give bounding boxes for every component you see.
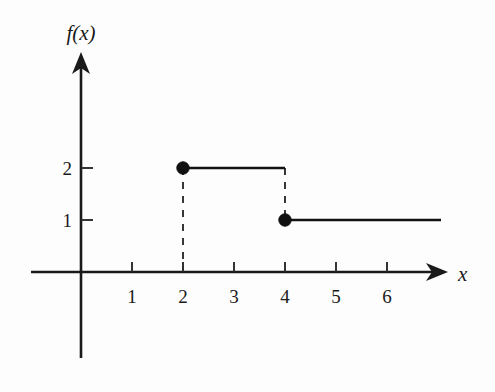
plot-canvas [0, 0, 495, 392]
x-tick-label-4: 4 [280, 287, 290, 306]
x-tick-label-2: 2 [178, 287, 188, 306]
x-tick-label-3: 3 [229, 287, 239, 306]
y-axis-label: f(x) [66, 23, 95, 44]
x-tick-label-1: 1 [127, 287, 137, 306]
x-tick-label-6: 6 [382, 287, 392, 306]
closed-point-4-1 [279, 214, 291, 226]
x-axis-label: x [458, 264, 467, 285]
closed-point-2-2 [177, 162, 189, 174]
x-tick-label-5: 5 [331, 287, 341, 306]
y-tick-label-1: 1 [63, 211, 73, 230]
step-function-figure: f(x) x 2 1 1 2 3 4 5 6 [0, 0, 495, 392]
y-tick-label-2: 2 [63, 159, 73, 178]
